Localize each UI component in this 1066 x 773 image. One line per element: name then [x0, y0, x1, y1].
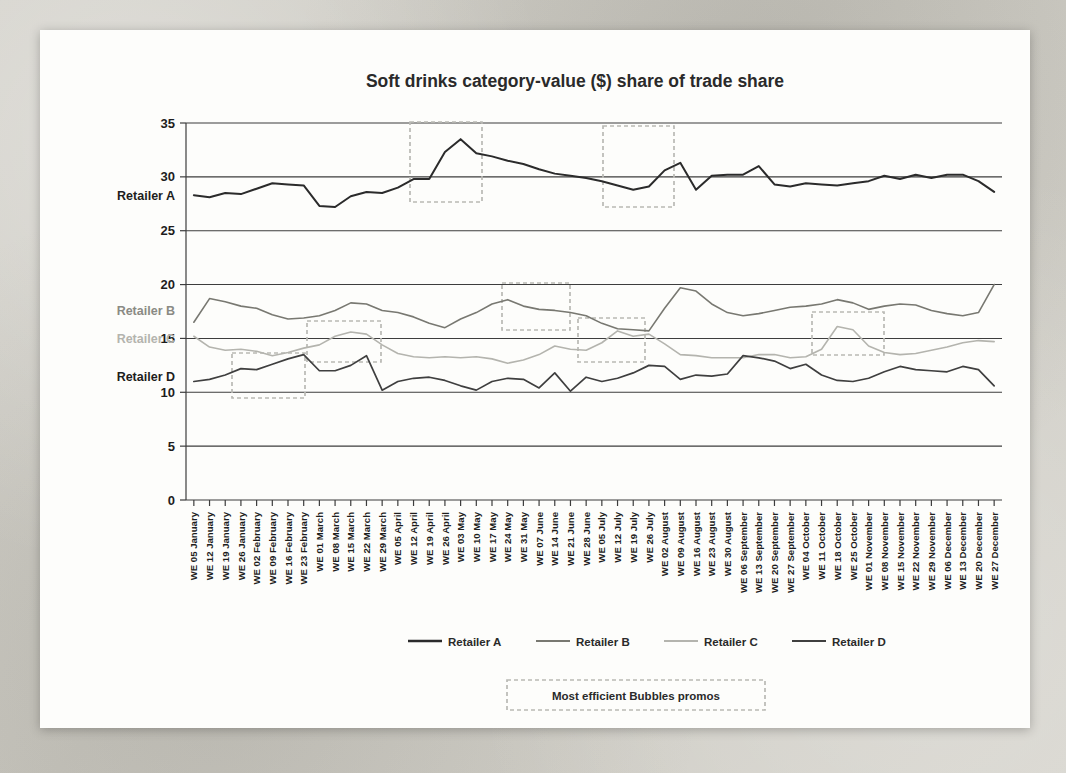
x-tick-label: WE 29 March — [377, 512, 388, 572]
x-tick-label: WE 29 November — [926, 512, 937, 591]
x-tick-label: WE 13 December — [957, 512, 968, 590]
x-tick-label: WE 19 July — [628, 511, 639, 562]
x-tick-label: WE 10 May — [471, 511, 482, 562]
x-tick-label: WE 01 March — [314, 512, 325, 572]
x-tick-label: WE 24 May — [502, 511, 513, 562]
series-label-retailer-b: Retailer B — [117, 304, 175, 318]
highlight-box — [307, 321, 381, 362]
x-tick-label: WE 04 October — [800, 512, 811, 581]
highlight-box — [410, 122, 482, 202]
y-tick-label: 35 — [161, 116, 175, 131]
x-tick-label: WE 05 January — [188, 511, 199, 580]
series-label-retailer-d: Retailer D — [117, 370, 175, 384]
x-tick-label: WE 12 April — [408, 512, 419, 565]
x-tick-label: WE 07 June — [534, 512, 545, 566]
x-tick-label: WE 26 January — [236, 511, 247, 580]
x-tick-label: WE 01 November — [863, 512, 874, 591]
x-tick-label: WE 13 September — [753, 512, 764, 593]
x-tick-label: WE 06 September — [738, 512, 749, 593]
y-tick-label: 30 — [161, 169, 175, 184]
x-tick-label: WE 28 June — [581, 512, 592, 566]
x-axis-tick-marks — [194, 500, 994, 506]
series-line-retailer-c — [194, 327, 994, 364]
y-tick-label: 0 — [168, 493, 175, 508]
x-tick-label: WE 19 April — [424, 512, 435, 565]
x-tick-label: WE 15 March — [345, 512, 356, 572]
x-tick-label: WE 23 February — [298, 511, 309, 584]
highlight-box — [502, 283, 570, 330]
x-axis-tick-labels: WE 05 JanuaryWE 12 JanuaryWE 19 JanuaryW… — [188, 511, 999, 593]
x-tick-label: WE 16 February — [283, 511, 294, 584]
x-tick-label: WE 18 October — [832, 512, 843, 581]
x-tick-label: WE 25 October — [848, 512, 859, 581]
x-tick-label: WE 27 September — [785, 512, 796, 593]
x-tick-label: WE 02 August — [659, 511, 670, 576]
legend-label-retailer-b: Retailer B — [576, 636, 630, 648]
chart-canvas: Soft drinks category-value ($) share of … — [40, 30, 1030, 728]
x-tick-label: WE 09 August — [675, 511, 686, 576]
x-tick-label: WE 22 March — [361, 512, 372, 572]
series-label-retailer-c: Retailer C — [117, 332, 175, 346]
chart-legend: Retailer ARetailer BRetailer CRetailer D — [408, 636, 886, 648]
x-tick-label: WE 05 April — [392, 512, 403, 565]
x-tick-label: WE 30 August — [722, 511, 733, 576]
x-tick-label: WE 09 February — [267, 511, 278, 584]
highlight-box — [578, 318, 645, 362]
x-tick-label: WE 02 February — [251, 511, 262, 584]
y-tick-label: 10 — [161, 385, 175, 400]
series-line-retailer-a — [194, 139, 994, 207]
x-tick-label: WE 26 July — [644, 511, 655, 562]
chart-title: Soft drinks category-value ($) share of … — [366, 71, 784, 91]
y-tick-label: 5 — [168, 439, 175, 454]
annotation-callout: Most efficient Bubbles promos — [507, 680, 765, 710]
x-tick-label: WE 14 June — [549, 512, 560, 566]
x-tick-label: WE 06 December — [942, 512, 953, 590]
x-tick-label: WE 27 December — [989, 512, 1000, 590]
x-tick-label: WE 26 April — [440, 512, 451, 565]
x-tick-label: WE 16 August — [691, 511, 702, 576]
x-tick-label: WE 15 November — [895, 512, 906, 591]
x-tick-label: WE 12 January — [204, 511, 215, 580]
x-tick-label: WE 11 October — [816, 512, 827, 580]
x-tick-label: WE 08 November — [879, 512, 890, 591]
legend-label-retailer-c: Retailer C — [704, 636, 758, 648]
legend-label-retailer-d: Retailer D — [832, 636, 886, 648]
legend-label-retailer-a: Retailer A — [448, 636, 501, 648]
series-line-retailer-b — [194, 285, 994, 331]
x-tick-label: WE 19 January — [220, 511, 231, 580]
x-tick-label: WE 20 September — [769, 512, 780, 593]
annotation-label: Most efficient Bubbles promos — [552, 690, 720, 702]
x-tick-label: WE 23 August — [706, 511, 717, 576]
x-tick-label: WE 21 June — [565, 512, 576, 566]
chart-page: Soft drinks category-value ($) share of … — [40, 30, 1030, 728]
y-tick-label: 20 — [161, 277, 175, 292]
x-tick-label: WE 22 November — [910, 512, 921, 591]
y-tick-label: 25 — [161, 223, 175, 238]
line-chart: Soft drinks category-value ($) share of … — [40, 30, 1030, 728]
series-line-retailer-d — [194, 355, 994, 392]
x-tick-label: WE 03 May — [455, 511, 466, 562]
highlight-box — [603, 126, 674, 207]
x-tick-label: WE 31 May — [518, 511, 529, 562]
series-label-retailer-a: Retailer A — [117, 189, 175, 203]
x-tick-label: WE 05 July — [596, 511, 607, 562]
highlight-box — [232, 353, 305, 398]
x-tick-label: WE 20 December — [973, 512, 984, 590]
x-tick-label: WE 17 May — [487, 511, 498, 562]
x-tick-label: WE 12 July — [612, 511, 623, 562]
x-tick-label: WE 08 March — [330, 512, 341, 572]
